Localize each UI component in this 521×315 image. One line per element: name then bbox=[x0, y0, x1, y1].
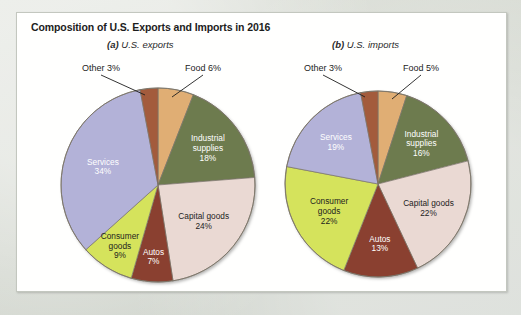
pie-charts-svg: Food 6%Industrial supplies 18%Capital go… bbox=[17, 13, 506, 291]
callout-label-other: Other 3% bbox=[304, 63, 342, 73]
callout-leader-other bbox=[101, 75, 145, 95]
pie-chart-exports: Food 6%Industrial supplies 18%Capital go… bbox=[61, 63, 255, 282]
charts-area: Food 6%Industrial supplies 18%Capital go… bbox=[17, 13, 506, 291]
pie-chart-imports: Food 5%Industrial supplies 16%Capital go… bbox=[285, 63, 471, 277]
slice-label-autos: Autos13% bbox=[369, 234, 390, 254]
callout-label-other: Other 3% bbox=[82, 63, 120, 73]
callout-label-food: Food 5% bbox=[403, 63, 439, 73]
callout-leader-other bbox=[323, 75, 365, 97]
figure-card: Composition of U.S. Exports and Imports … bbox=[16, 12, 507, 292]
callout-label-food: Food 6% bbox=[185, 63, 221, 73]
